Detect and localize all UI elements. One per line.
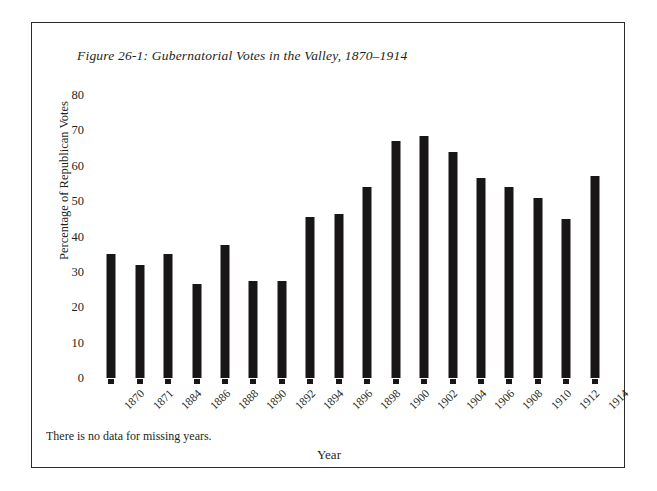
bar (249, 281, 258, 378)
x-axis-tickmark (421, 379, 427, 384)
x-axis-tick-label: 1904 (463, 387, 488, 412)
bar-slot (467, 95, 495, 378)
bar-slot (381, 95, 409, 378)
bar (505, 187, 514, 378)
x-axis-tick-label: 1894 (321, 387, 346, 412)
bar (420, 136, 429, 378)
x-axis-tickmark (307, 379, 313, 384)
bar-slot (182, 95, 210, 378)
x-axis-tick-label: 1906 (492, 387, 517, 412)
bar-slot (97, 95, 125, 378)
x-axis-tick-label: 1890 (264, 387, 289, 412)
bar (363, 187, 372, 378)
figure-frame: Figure 26-1: Gubernatorial Votes in the … (31, 22, 625, 468)
x-axis-tickmark (478, 379, 484, 384)
x-axis-tickmark (393, 379, 399, 384)
x-axis-tickmark (250, 379, 256, 384)
x-axis-tick-label: 1914 (606, 387, 631, 412)
y-axis-tick-label: 80 (72, 88, 85, 103)
y-axis-tick-label: 60 (72, 158, 85, 173)
y-axis-tick-label: 40 (72, 229, 85, 244)
bar-slot (325, 95, 353, 378)
x-axis-tick-label: 1870 (122, 387, 147, 412)
y-axis-tick-label: 20 (72, 300, 85, 315)
bar (476, 178, 485, 378)
bar (334, 214, 343, 378)
bar-slot (581, 95, 609, 378)
x-axis-tickmark (165, 379, 171, 384)
x-axis-tick-label: 1910 (549, 387, 574, 412)
x-axis-tick-label: 1912 (577, 387, 602, 412)
bar (164, 254, 173, 378)
x-axis-tick-label: 1871 (150, 387, 175, 412)
x-axis-tick-label: 1884 (179, 387, 204, 412)
x-axis-tickmark (450, 379, 456, 384)
x-axis-tick-label: 1898 (378, 387, 403, 412)
x-axis-tickmark (364, 379, 370, 384)
bar-slot (353, 95, 381, 378)
x-axis-tick-label: 1902 (435, 387, 460, 412)
figure-footnote: There is no data for missing years. (46, 429, 212, 444)
x-axis-tickmark (336, 379, 342, 384)
bar (448, 152, 457, 378)
y-axis-tick-label: 10 (72, 335, 85, 350)
bar-slot (552, 95, 580, 378)
y-axis-tick-label: 50 (72, 194, 85, 209)
bar-slot (268, 95, 296, 378)
y-axis-tick-label: 0 (78, 371, 84, 386)
bar-slot (154, 95, 182, 378)
bar (306, 217, 315, 378)
y-axis-tick-label: 30 (72, 264, 85, 279)
bar (391, 141, 400, 378)
bar (562, 219, 571, 378)
bar-slot (410, 95, 438, 378)
bar-slot (296, 95, 324, 378)
y-axis-tick-labels: 01020304050607080 (38, 95, 84, 378)
x-axis-tickmark (279, 379, 285, 384)
bar (135, 265, 144, 378)
x-axis-tick-label: 1888 (236, 387, 261, 412)
x-axis-tick-label: 1896 (350, 387, 375, 412)
x-axis-tickmark (592, 379, 598, 384)
bar-slot (211, 95, 239, 378)
bar-slot (239, 95, 267, 378)
x-axis-tick-label: 1900 (406, 387, 431, 412)
x-axis-tickmark (137, 379, 143, 384)
x-axis-tickmark (194, 379, 200, 384)
figure-title: Figure 26-1: Gubernatorial Votes in the … (77, 48, 407, 64)
bar (590, 176, 599, 378)
bar-slot (524, 95, 552, 378)
x-axis-tickmark (506, 379, 512, 384)
bar (220, 245, 229, 378)
x-axis-tickmark (222, 379, 228, 384)
x-axis-tick-label: 1908 (520, 387, 545, 412)
x-axis-tick-label: 1892 (293, 387, 318, 412)
bar-series (97, 95, 609, 378)
x-axis-tickmark (535, 379, 541, 384)
bar (192, 284, 201, 378)
x-axis-tickmark (563, 379, 569, 384)
bar (533, 198, 542, 378)
x-axis-title: Year (32, 447, 626, 463)
bar (277, 281, 286, 378)
bar (107, 254, 116, 378)
figure-page: Figure 26-1: Gubernatorial Votes in the … (0, 0, 657, 491)
x-axis-tickmark (108, 379, 114, 384)
x-axis-tick-label: 1886 (207, 387, 232, 412)
bar-slot (438, 95, 466, 378)
bar-slot (495, 95, 523, 378)
bar-slot (125, 95, 153, 378)
y-axis-tick-label: 70 (72, 123, 85, 138)
